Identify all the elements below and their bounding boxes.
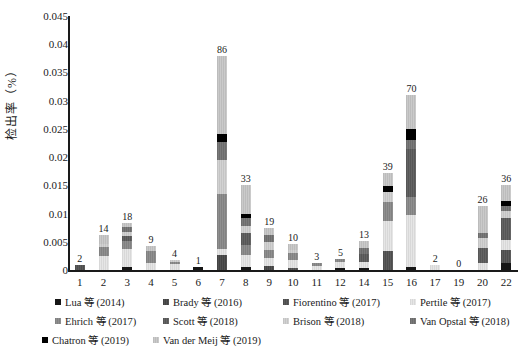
bar-segment[interactable] xyxy=(288,268,298,270)
bar-segment[interactable] xyxy=(406,149,416,197)
bar-segment[interactable] xyxy=(217,255,227,270)
bar-segment[interactable] xyxy=(335,262,345,269)
bar-segment[interactable] xyxy=(217,142,227,159)
bar-segment[interactable] xyxy=(359,241,369,248)
stacked-bar-16[interactable] xyxy=(406,95,416,270)
bar-segment[interactable] xyxy=(406,215,416,267)
bar-segment[interactable] xyxy=(217,134,227,142)
bar-segment[interactable] xyxy=(383,202,393,222)
bar-segment[interactable] xyxy=(264,235,274,243)
bar-segment[interactable] xyxy=(241,226,251,233)
stacked-bar-7[interactable] xyxy=(217,56,227,270)
bar-segment[interactable] xyxy=(501,250,511,264)
legend-item[interactable]: Brison 等 (2018) xyxy=(283,313,410,328)
x-tick-label-22: 22 xyxy=(494,276,518,288)
bar-segment[interactable] xyxy=(241,233,251,244)
bar-segment[interactable] xyxy=(193,267,203,270)
stacked-bar-2[interactable] xyxy=(99,235,109,270)
bar-segment[interactable] xyxy=(501,185,511,201)
bar-segment[interactable] xyxy=(264,258,274,266)
bar-segment[interactable] xyxy=(146,251,156,262)
bar-segment[interactable] xyxy=(241,218,251,226)
bar-segment[interactable] xyxy=(430,265,440,270)
stacked-bar-20[interactable] xyxy=(478,206,488,270)
bar-segment[interactable] xyxy=(383,192,393,202)
bar-segment[interactable] xyxy=(406,267,416,270)
bar-segment[interactable] xyxy=(264,250,274,258)
stacked-bar-10[interactable] xyxy=(288,244,298,270)
bar-segment[interactable] xyxy=(478,263,488,270)
legend-item[interactable]: Pertile 等 (2017) xyxy=(410,294,491,309)
stacked-bar-17[interactable] xyxy=(430,265,440,270)
bar-segment[interactable] xyxy=(359,262,369,269)
legend-label: Brady 等 (2016) xyxy=(173,294,242,309)
legend-item[interactable]: Van der Meij 等 (2019) xyxy=(153,332,261,347)
bar-segment[interactable] xyxy=(241,185,251,213)
bar-segment[interactable] xyxy=(122,267,132,270)
bar-segment[interactable] xyxy=(406,197,416,215)
x-tick-label-19: 19 xyxy=(447,276,471,288)
legend-item[interactable]: Lua 等 (2014) xyxy=(55,294,163,309)
legend-item[interactable]: Van Opstal 等 (2018) xyxy=(410,313,510,328)
bar-segment[interactable] xyxy=(99,256,109,270)
bar-count-label: 1 xyxy=(186,256,210,266)
bar-segment[interactable] xyxy=(241,267,251,270)
bar-count-label: 9 xyxy=(139,235,163,245)
bar-segment[interactable] xyxy=(478,238,488,248)
y-tick-label: 0.005 xyxy=(16,237,68,247)
legend-item[interactable]: Brady 等 (2016) xyxy=(163,294,283,309)
legend-item[interactable]: Scott 等 (2018) xyxy=(163,313,283,328)
bar-slot-6: 1 xyxy=(186,16,210,270)
bar-segment[interactable] xyxy=(264,242,274,250)
bar-segment[interactable] xyxy=(170,264,180,270)
bar-segment[interactable] xyxy=(241,255,251,267)
stacked-bar-5[interactable] xyxy=(170,260,180,270)
bar-segment[interactable] xyxy=(99,235,109,243)
stacked-bar-22[interactable] xyxy=(501,185,511,270)
stacked-bar-15[interactable] xyxy=(383,173,393,270)
bar-segment[interactable] xyxy=(146,263,156,270)
bar-segment[interactable] xyxy=(75,265,85,270)
legend-label: Van Opstal 等 (2018) xyxy=(420,313,510,328)
stacked-bar-8[interactable] xyxy=(241,185,251,270)
stacked-bar-12[interactable] xyxy=(335,259,345,270)
bar-segment[interactable] xyxy=(383,221,393,251)
stacked-bar-6[interactable] xyxy=(193,267,203,270)
bar-segment[interactable] xyxy=(241,245,251,255)
bar-segment[interactable] xyxy=(383,251,393,270)
bar-segment[interactable] xyxy=(217,194,227,249)
stacked-bar-14[interactable] xyxy=(359,241,369,270)
bar-segment[interactable] xyxy=(406,129,416,140)
bar-segment[interactable] xyxy=(501,218,511,241)
bar-segment[interactable] xyxy=(99,247,109,255)
bar-segment[interactable] xyxy=(501,240,511,250)
bar-segment[interactable] xyxy=(217,56,227,134)
stacked-bar-11[interactable] xyxy=(312,263,322,270)
legend-item[interactable]: Fiorentino 等 (2017) xyxy=(283,294,410,309)
stacked-bar-4[interactable] xyxy=(146,246,156,270)
bar-segment[interactable] xyxy=(478,206,488,233)
bar-segment[interactable] xyxy=(122,249,132,267)
stacked-bar-9[interactable] xyxy=(264,228,274,270)
bar-segment[interactable] xyxy=(335,268,345,270)
bar-segment[interactable] xyxy=(406,140,416,149)
bar-segment[interactable] xyxy=(359,268,369,270)
bar-segment[interactable] xyxy=(122,241,132,249)
legend-item[interactable]: Ehrich 等 (2017) xyxy=(55,313,163,328)
legend-swatch xyxy=(163,318,169,324)
bar-segment[interactable] xyxy=(501,211,511,218)
bar-segment[interactable] xyxy=(288,253,298,260)
bar-count-label: 70 xyxy=(400,84,424,94)
bar-segment[interactable] xyxy=(359,254,369,262)
stacked-bar-1[interactable] xyxy=(75,265,85,270)
bar-segment[interactable] xyxy=(383,173,393,186)
stacked-bar-3[interactable] xyxy=(122,223,132,270)
bar-segment[interactable] xyxy=(406,95,416,129)
bar-segment[interactable] xyxy=(264,266,274,270)
bar-segment[interactable] xyxy=(501,263,511,270)
bar-segment[interactable] xyxy=(478,248,488,263)
bar-segment[interactable] xyxy=(217,160,227,194)
bar-segment[interactable] xyxy=(312,266,322,270)
legend-item[interactable]: Chatron 等 (2019) xyxy=(42,332,153,347)
bar-segment[interactable] xyxy=(288,260,298,268)
